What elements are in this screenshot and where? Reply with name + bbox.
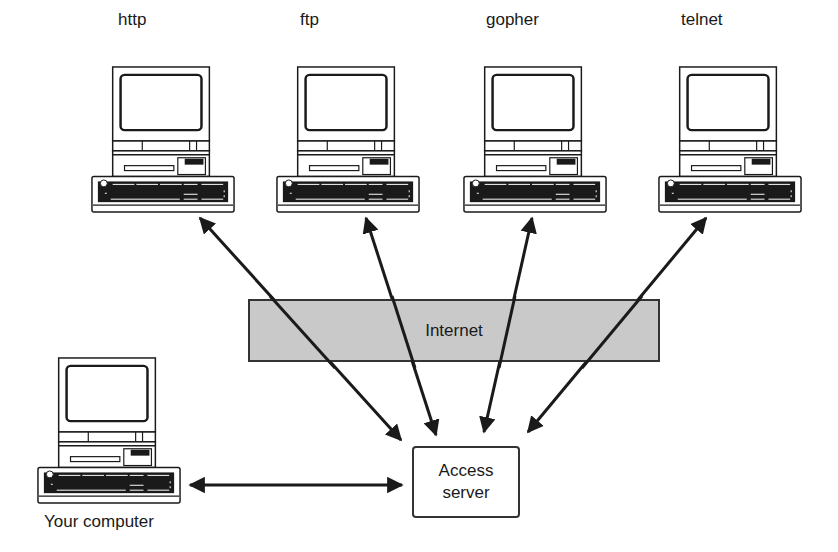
- access-server-label-line2: server: [442, 482, 489, 504]
- computer-icon-ftp: [275, 65, 421, 213]
- server-label-gopher: gopher: [486, 10, 539, 30]
- server-label-http: http: [118, 10, 146, 30]
- computer-icon-gopher: [462, 65, 608, 213]
- computer-icon-http: [90, 65, 236, 213]
- server-label-ftp: ftp: [300, 10, 319, 30]
- computer-icon-your-computer: [36, 356, 182, 504]
- access-server-label-line1: Access: [439, 460, 494, 482]
- computer-icon-telnet: [657, 65, 803, 213]
- your-computer-label: Your computer: [44, 512, 154, 532]
- server-label-telnet: telnet: [681, 10, 723, 30]
- internet-cloud-box: Internet: [248, 299, 660, 362]
- access-server-box: Access server: [412, 446, 520, 518]
- internet-label: Internet: [425, 321, 483, 341]
